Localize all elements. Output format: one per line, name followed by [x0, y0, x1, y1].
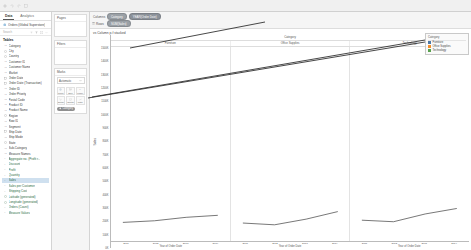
tab-analytics[interactable]: Analytics [18, 13, 36, 19]
field-search-row[interactable]: Search [0, 29, 51, 36]
field-label: Product Name [9, 108, 28, 112]
calendar-icon [4, 130, 7, 133]
field-label: Ship Mode [9, 135, 23, 139]
svg-text:#: # [4, 158, 6, 160]
marks-type-select[interactable]: Automatic [57, 77, 85, 84]
save-icon[interactable] [24, 4, 28, 8]
field-label: Sales per Customer [9, 184, 36, 188]
chevron-down-icon[interactable] [45, 31, 48, 34]
marks-color-button[interactable]: Color [57, 87, 66, 96]
svg-text:Ab: Ab [4, 125, 7, 127]
undo-icon[interactable] [10, 4, 14, 8]
pages-card[interactable]: Pages [54, 14, 87, 37]
field-label: Order ID [9, 87, 21, 91]
marks-detail-button[interactable]: Detail [57, 96, 66, 105]
field-label: Product ID [9, 103, 23, 107]
grid-icon[interactable] [40, 31, 43, 34]
svg-text:Ab: Ab [4, 109, 7, 111]
svg-text:Ab: Ab [4, 136, 7, 138]
pill-category[interactable]: Category [107, 13, 127, 20]
tab-data[interactable]: Data [3, 13, 14, 20]
abc-icon: Ab [4, 120, 7, 123]
field-label: Customer Name [9, 65, 31, 69]
tables-section-title: Tables [0, 36, 51, 43]
pages-card-title: Pages [55, 15, 86, 22]
calendar-icon [4, 82, 7, 85]
x-panel-furniture: 2011201220132014 Year of Order Date [111, 242, 230, 248]
marks-path-button[interactable]: Path [76, 96, 85, 105]
pages-card-dropzone[interactable] [55, 22, 86, 36]
pill-year-order-date[interactable]: YEAR(Order Date) [129, 13, 161, 20]
shelf-area: Columns Category YEAR(Order Date) Rows S… [90, 12, 471, 29]
size-icon [69, 88, 72, 91]
panels-wrap: Category Furniture Office Supplies Techn… [111, 35, 469, 249]
color-legend[interactable]: Category Furniture Office Supplies Techn… [425, 33, 469, 55]
pill-sum-sales[interactable]: SUM(Sales) [107, 20, 131, 27]
columns-shelf-row[interactable]: Columns Category YEAR(Order Date) [92, 13, 469, 20]
column-header-furniture[interactable]: Furniture [111, 41, 231, 46]
rows-shelf-dropzone[interactable]: SUM(Sales) [107, 20, 469, 27]
filters-card-dropzone[interactable] [55, 48, 86, 64]
legend-label: Office Supplies [433, 45, 451, 48]
marks-size-button[interactable]: Size [66, 87, 75, 96]
svg-text:#: # [4, 163, 6, 165]
abc-icon: Ab [4, 109, 7, 112]
hash-icon: # [4, 163, 7, 166]
column-header-office-supplies[interactable]: Office Supplies [231, 41, 351, 46]
series-line[interactable] [123, 215, 218, 222]
menu-bar[interactable] [0, 0, 471, 12]
svg-text:Ab: Ab [4, 104, 7, 106]
search-tools[interactable] [30, 31, 48, 34]
series-line[interactable] [362, 208, 457, 221]
x-panel-office-supplies: 2011201220132014 Year of Order Date [230, 242, 349, 248]
sort-icon[interactable] [30, 31, 33, 34]
legend-swatch [428, 41, 431, 44]
marks-tooltip-button[interactable]: Tooltip [66, 96, 75, 105]
y-tick-label: 900K [102, 126, 108, 129]
panel-technology[interactable] [350, 47, 469, 242]
legend-item-technology[interactable]: Technology [428, 49, 466, 53]
marks-properties-grid[interactable]: Color Size T Label Detail Tooltip [55, 86, 86, 106]
svg-text:#: # [4, 190, 6, 192]
field-list[interactable]: AbCategory City Country AbCustomer ID Ab… [0, 43, 51, 250]
marks-card-title: Marks [55, 69, 86, 76]
datasource-name: Orders (Global Superstore) [8, 23, 45, 27]
marks-size-label: Size [68, 92, 72, 94]
rows-shelf-row[interactable]: Rows SUM(Sales) [92, 20, 469, 27]
marks-card[interactable]: Marks Automatic Color Size T Label [54, 68, 87, 114]
cards-column: Pages Filters Marks Automatic Color Size [52, 0, 90, 250]
filters-card[interactable]: Filters [54, 40, 87, 65]
field-label: Category [9, 44, 21, 48]
field-label: Orders (Count) [9, 205, 29, 209]
marks-type-label: Automatic [59, 79, 71, 83]
series-line[interactable] [243, 211, 338, 224]
svg-text:Ab: Ab [4, 88, 7, 90]
filter-icon[interactable] [35, 31, 38, 34]
y-tick-label: 600K [102, 166, 108, 169]
field-label: City [9, 49, 14, 53]
marks-label-button[interactable]: T Label [76, 87, 85, 96]
svg-text:Ab: Ab [4, 147, 7, 149]
hash-icon: # [4, 206, 7, 209]
data-pane-tabs[interactable]: Data Analytics [0, 12, 51, 21]
columns-shelf-dropzone[interactable]: Category YEAR(Order Date) [107, 13, 469, 20]
database-icon [3, 23, 7, 27]
marks-color-pill[interactable]: Category [57, 107, 75, 111]
datasource-row[interactable]: Orders (Global Superstore) [0, 21, 51, 29]
y-axis[interactable]: 0K100K200K300K400K500K600K700K800K900K10… [98, 35, 111, 249]
legend-swatch [428, 49, 431, 52]
panel-furniture[interactable] [111, 47, 231, 242]
abc-icon: Ab [4, 93, 7, 96]
detail-icon [59, 98, 62, 101]
calendar-icon [4, 77, 7, 80]
panel-office-supplies[interactable] [231, 47, 351, 242]
field-label: Order Date [9, 76, 24, 80]
svg-text:T: T [79, 88, 81, 91]
marks-pill-row[interactable]: Category [55, 106, 86, 113]
hash-icon: # [4, 179, 7, 182]
chevron-down-icon[interactable] [79, 79, 82, 82]
redo-icon[interactable] [17, 4, 21, 8]
search-input[interactable]: Search [3, 30, 12, 34]
field-label: Profit [9, 168, 16, 172]
field-item[interactable]: #Measure Values [2, 210, 49, 215]
